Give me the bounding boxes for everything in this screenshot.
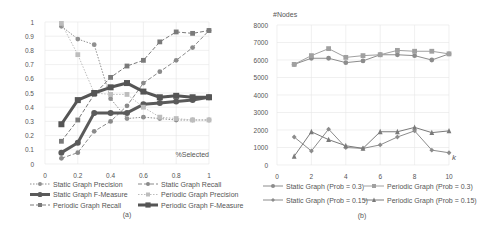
x-axis-title: %Selected (176, 151, 210, 158)
y-tick-label: 5000 (254, 74, 269, 81)
x-tick-label: 0.4 (106, 172, 115, 179)
series-line (292, 46, 452, 67)
legend-item: Static Graph Precision (30, 181, 123, 189)
square-marker (108, 75, 113, 80)
legend-label: Static Graph (Prob = 0.15) (286, 197, 368, 205)
square-marker (59, 21, 64, 26)
y-tick-label: 2000 (254, 127, 269, 134)
circle-marker (92, 129, 97, 134)
square-marker (157, 39, 162, 44)
legend-label: Static Graph (Prob = 0.3) (286, 183, 364, 191)
series-line (58, 94, 212, 155)
square-marker (75, 118, 80, 123)
x-tick-label: 2 (310, 173, 314, 180)
y-axis-labels: 010002000300040005000600070008000 (254, 22, 269, 169)
diamond-marker (447, 150, 452, 155)
chart-caption: (a) (123, 211, 132, 219)
legend-item: Static Graph Recall (138, 181, 222, 189)
square-marker (108, 92, 113, 97)
circle-marker (173, 99, 179, 105)
legend-label: Static Graph F-Measure (53, 191, 128, 199)
square-marker (190, 94, 196, 100)
y-tick-label: 0 (30, 161, 34, 168)
chart-b: 0100020003000400050006000700080000246810… (254, 11, 477, 220)
legend-label: Periodic Graph F-Measure (161, 202, 244, 210)
square-marker (157, 94, 163, 100)
circle-marker (395, 52, 400, 57)
square-marker (190, 31, 195, 36)
square-marker (361, 53, 366, 58)
y-tick-label: 0.5 (25, 90, 34, 97)
square-marker (157, 115, 162, 120)
circle-marker (125, 116, 130, 121)
legend-item: Periodic Graph (Prob = 0.3) (364, 183, 473, 191)
square-marker (447, 51, 452, 56)
legend-label: Static Graph Precision (53, 181, 123, 189)
y-tick-label: 0.6 (25, 75, 34, 82)
circle-marker (75, 37, 80, 42)
y-tick-label: 0.7 (25, 61, 34, 68)
square-marker (145, 202, 150, 207)
circle-marker (108, 119, 113, 124)
square-marker (125, 64, 130, 69)
square-marker (207, 28, 212, 33)
circle-marker (75, 150, 80, 155)
square-marker (395, 48, 400, 53)
diamond-marker (271, 198, 275, 202)
legend-item: Static Graph (Prob = 0.15) (263, 197, 368, 205)
square-marker (174, 116, 179, 121)
y-tick-label: 7000 (254, 39, 269, 46)
y-tick-label: 0.2 (25, 132, 34, 139)
square-marker (58, 121, 64, 127)
circle-marker (92, 42, 97, 47)
y-axis-labels: 00.10.20.30.40.50.60.70.80.91 (25, 19, 34, 168)
y-tick-label: 1000 (254, 144, 269, 151)
y-tick-label: 0.9 (25, 33, 34, 40)
legend: Static Graph PrecisionStatic Graph Recal… (30, 181, 244, 210)
circle-marker (75, 140, 81, 146)
y-tick-label: 0.3 (25, 118, 34, 125)
square-marker (412, 49, 417, 54)
square-marker (309, 53, 314, 58)
square-marker (141, 105, 146, 110)
square-marker (292, 62, 297, 67)
x-tick-label: 0 (43, 172, 47, 179)
diamond-marker (395, 135, 400, 140)
circle-marker (429, 58, 434, 63)
circle-marker (146, 182, 150, 186)
y-tick-label: 6000 (254, 57, 269, 64)
triangle-marker (309, 129, 314, 134)
x-tick-label: 1 (207, 172, 211, 179)
y-tick-label: 0.4 (25, 104, 34, 111)
x-tick-label: 8 (413, 173, 417, 180)
y-axis-title: #Nodes (273, 11, 298, 18)
x-tick-label: 10 (445, 173, 453, 180)
circle-marker (141, 81, 146, 86)
circle-marker (38, 182, 42, 186)
circle-marker (271, 184, 275, 188)
square-marker (141, 58, 146, 63)
circle-marker (361, 58, 366, 63)
circle-marker (91, 110, 97, 116)
series-line (58, 80, 212, 127)
chart-a: 00.10.20.30.40.50.60.70.80.9100.20.40.60… (25, 19, 244, 220)
legend-label: Periodic Graph (Prob = 0.3) (387, 183, 473, 191)
circle-marker (141, 115, 146, 120)
legend-item: Periodic Graph Recall (30, 202, 122, 210)
x-axis-labels: 00.20.40.60.81 (43, 172, 211, 179)
diamond-marker (378, 142, 383, 147)
square-marker (174, 30, 179, 35)
square-marker (108, 84, 114, 90)
triangle-marker (412, 124, 417, 129)
circle-marker (326, 56, 331, 61)
square-marker (206, 94, 212, 100)
series-line (59, 28, 211, 161)
x-tick-label: 0 (275, 173, 279, 180)
legend-label: Periodic Graph Precision (161, 191, 239, 199)
x-tick-label: 0.8 (172, 172, 181, 179)
x-tick-label: 4 (344, 173, 348, 180)
square-marker (190, 118, 195, 123)
chart-caption: (b) (358, 212, 367, 220)
y-tick-label: 4000 (254, 92, 269, 99)
circle-marker (157, 100, 163, 106)
